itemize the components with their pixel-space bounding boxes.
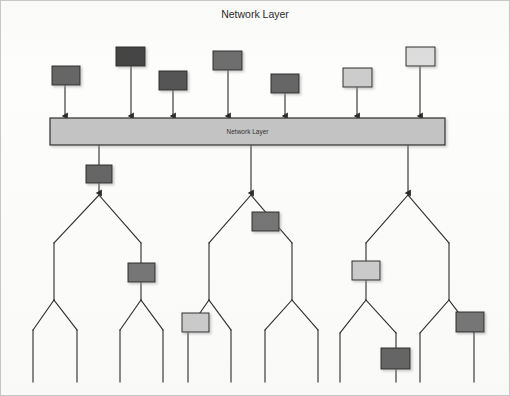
tree-1-fork-3 xyxy=(120,300,141,330)
tree-2-node-1[interactable] xyxy=(252,212,279,231)
network-layer-diagram: Network Layer Network Layer xyxy=(0,0,510,396)
trunk-node-1[interactable] xyxy=(86,165,112,183)
tree-1-fork-2 xyxy=(54,300,77,330)
tree-3-branch-1 xyxy=(366,195,408,243)
tree-3-branch-2 xyxy=(408,195,449,243)
incoming-node-5[interactable] xyxy=(271,74,299,93)
incoming-node-4[interactable] xyxy=(213,51,242,70)
network-layer-bar-label: Network Layer xyxy=(227,128,270,136)
tree-2-fork-3 xyxy=(265,300,292,330)
tree-3-fork-1 xyxy=(340,300,366,333)
tree-3-node-3[interactable] xyxy=(381,348,410,369)
page-title: Network Layer xyxy=(221,8,289,20)
tree-3-fork-2 xyxy=(366,300,396,333)
incoming-node-2[interactable] xyxy=(116,47,145,66)
incoming-node-1[interactable] xyxy=(52,66,80,85)
incoming-node-6[interactable] xyxy=(343,68,372,87)
tree-1-branch-1 xyxy=(54,195,99,243)
tree-3-fork-3 xyxy=(420,300,449,333)
tree-2-fork-4 xyxy=(292,300,318,330)
tree-3-node-1[interactable] xyxy=(352,261,380,280)
tree-2-branch-1 xyxy=(209,195,251,243)
tree-1-fork-4 xyxy=(141,300,163,330)
tree-2-node-2[interactable] xyxy=(182,313,209,332)
tree-2-fork-2 xyxy=(209,300,231,330)
tree-1-node-1[interactable] xyxy=(128,263,155,282)
network-layer-bar[interactable]: Network Layer xyxy=(50,118,445,145)
tree-3-node-2[interactable] xyxy=(456,312,484,332)
incoming-node-3[interactable] xyxy=(159,71,187,90)
tree-1-branch-2 xyxy=(99,195,141,243)
tree-1-fork-1 xyxy=(33,300,54,330)
incoming-node-7[interactable] xyxy=(406,47,435,66)
diagram-canvas: Network Layer Network Layer xyxy=(0,0,510,396)
